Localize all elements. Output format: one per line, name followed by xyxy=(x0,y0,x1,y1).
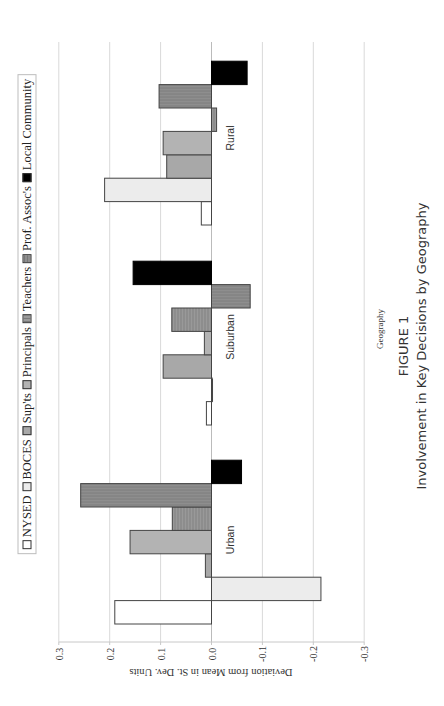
bar-nysed xyxy=(201,202,211,225)
legend-label: Teachers xyxy=(20,267,35,311)
bar-sup-ts xyxy=(163,355,211,378)
bar-principals xyxy=(130,530,211,553)
bar-local-community xyxy=(133,261,211,284)
bar-boces xyxy=(212,577,321,600)
bar-sup-ts xyxy=(167,155,212,178)
bar-nysed xyxy=(206,402,211,425)
legend-label: Sup'ts xyxy=(20,393,35,423)
bar-principals xyxy=(204,331,211,354)
bar-boces xyxy=(105,178,212,201)
tick-label: 0.2 xyxy=(104,648,115,661)
legend-item: Teachers xyxy=(20,267,35,323)
legend-item: Principals xyxy=(20,327,35,389)
bar-chart-plot xyxy=(0,0,444,706)
bar-principals xyxy=(163,131,211,154)
bar-teachers xyxy=(172,308,212,331)
legend-label: Principals xyxy=(20,327,35,377)
bar-local-community xyxy=(212,61,248,84)
legend-label: NYSED xyxy=(20,495,35,537)
value-axis-title: Deviation from Mean in St. Dev. Units xyxy=(129,667,292,678)
legend-item: Sup'ts xyxy=(20,393,35,435)
bar-group-urban xyxy=(81,460,321,624)
category-label-urban: Urban xyxy=(224,526,236,555)
figure-caption: Involvement in Key Decisions by Geograph… xyxy=(414,203,429,490)
bar-boces xyxy=(212,378,213,401)
legend-item: Local Community xyxy=(20,79,35,182)
tick-label: 0.0 xyxy=(206,648,217,661)
legend-label: BOCES xyxy=(20,439,35,479)
legend-item: Prof. Assoc's xyxy=(20,186,35,263)
legend-label: Prof. Assoc's xyxy=(20,186,35,251)
legend-swatch xyxy=(23,540,32,549)
tick-label: -0.1 xyxy=(257,646,268,662)
legend: NYSEDBOCESSup'tsPrincipalsTeachersProf. … xyxy=(18,74,37,554)
bar-teachers xyxy=(172,507,211,530)
tick-label: 0.3 xyxy=(53,648,64,661)
bar-prof-assoc-s xyxy=(212,285,251,308)
legend-swatch xyxy=(23,482,32,491)
category-label-suburban: Suburban xyxy=(224,314,236,360)
legend-swatch xyxy=(23,426,32,435)
legend-swatch xyxy=(23,314,32,323)
legend-swatch xyxy=(23,380,32,389)
bar-prof-assoc-s xyxy=(159,85,211,108)
tick-label: -0.3 xyxy=(359,646,370,662)
category-axis-title: Geography xyxy=(375,309,385,349)
legend-item: NYSED xyxy=(20,495,35,549)
bar-prof-assoc-s xyxy=(81,484,212,507)
legend-swatch xyxy=(23,254,32,263)
tick-label: -0.2 xyxy=(308,646,319,662)
legend-item: BOCES xyxy=(20,439,35,491)
bar-teachers xyxy=(212,108,217,131)
legend-label: Local Community xyxy=(20,79,35,170)
bar-local-community xyxy=(212,460,242,483)
bar-sup-ts xyxy=(205,554,211,577)
bar-nysed xyxy=(115,601,212,624)
tick-label: 0.1 xyxy=(155,648,166,661)
figure-number: FIGURE 1 xyxy=(396,316,411,377)
legend-swatch xyxy=(23,173,32,182)
category-label-rural: Rural xyxy=(224,125,236,150)
